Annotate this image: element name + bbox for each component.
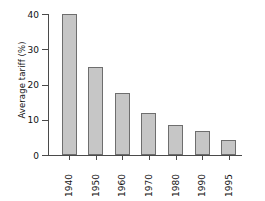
x-tick-label-1970: 1970: [143, 163, 155, 200]
x-tick-label-text-1980: 1980: [171, 169, 180, 201]
x-tick-label-1940: 1940: [63, 163, 75, 200]
x-tick-label-text-1940: 1940: [65, 169, 74, 201]
y-tick-40: 40: [42, 14, 48, 15]
x-tick-label-1980: 1980: [170, 163, 182, 200]
y-tick-label-30: 30: [28, 45, 39, 54]
x-tick-1960: [122, 155, 123, 160]
x-tick-label-1960: 1960: [116, 163, 128, 200]
x-tick-label-1995: 1995: [223, 163, 235, 200]
bar-1950: [88, 67, 103, 155]
bar-1980: [168, 125, 183, 155]
y-axis-title-text: Average tariff (%): [17, 41, 27, 118]
bar-group-1940: [56, 14, 83, 155]
bar-group-1980: [162, 14, 189, 155]
y-tick-label-10: 10: [28, 116, 39, 125]
bar-chart-figure: Average tariff (%) 010203040 19401950196…: [0, 0, 265, 200]
bar-group-1990: [189, 14, 216, 155]
plot-area: 010203040 1940195019601970198019901995: [56, 14, 242, 155]
y-axis-line: [48, 14, 49, 155]
x-tick-1995: [229, 155, 230, 160]
y-tick-label-40: 40: [28, 10, 39, 19]
y-tick-10: 10: [42, 120, 48, 121]
x-tick-label-1950: 1950: [90, 163, 102, 200]
x-tick-label-text-1950: 1950: [91, 169, 100, 201]
x-tick-1980: [176, 155, 177, 160]
bar-group-1970: [136, 14, 163, 155]
x-tick-1970: [149, 155, 150, 160]
x-tick-label-text-1960: 1960: [118, 169, 127, 201]
y-tick-label-0: 0: [33, 151, 39, 160]
x-axis-line: [48, 155, 242, 156]
y-tick-label-20: 20: [28, 81, 39, 90]
bar-1940: [62, 14, 77, 155]
x-tick-label-text-1990: 1990: [198, 169, 207, 201]
x-tick-1940: [69, 155, 70, 160]
y-tick-20: 20: [42, 85, 48, 86]
bar-group-1960: [109, 14, 136, 155]
bar-group-1995: [215, 14, 242, 155]
x-tick-label-text-1970: 1970: [145, 169, 154, 201]
bar-1960: [115, 93, 130, 155]
y-tick-0: 0: [42, 155, 48, 156]
bar-group-1950: [83, 14, 110, 155]
bar-1995: [221, 140, 236, 155]
bar-1970: [141, 113, 156, 155]
x-tick-1990: [202, 155, 203, 160]
x-tick-1950: [96, 155, 97, 160]
x-tick-label-1990: 1990: [196, 163, 208, 200]
bars-layer: [56, 14, 242, 155]
x-tick-label-text-1995: 1995: [224, 169, 233, 201]
bar-1990: [195, 131, 210, 155]
y-tick-30: 30: [42, 49, 48, 50]
